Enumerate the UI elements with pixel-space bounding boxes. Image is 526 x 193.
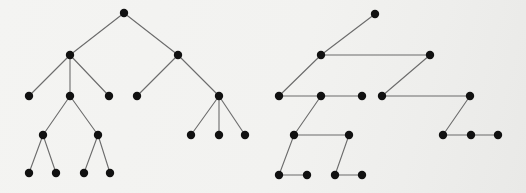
graph-node bbox=[317, 92, 325, 100]
graph-canvas bbox=[0, 0, 526, 193]
graph-edge bbox=[191, 96, 219, 135]
graph-node bbox=[466, 92, 474, 100]
graph-node bbox=[467, 131, 475, 139]
graph-edge bbox=[137, 55, 178, 96]
graph-edge bbox=[98, 135, 110, 173]
graph-edges-right-path-graph bbox=[279, 14, 498, 175]
graph-node bbox=[439, 131, 447, 139]
graph-node bbox=[120, 9, 128, 17]
graph-node bbox=[106, 169, 114, 177]
graph-node bbox=[378, 92, 386, 100]
graph-node bbox=[426, 51, 434, 59]
graph-node bbox=[215, 92, 223, 100]
graph-nodes-right-path-graph bbox=[275, 10, 502, 179]
graph-edge bbox=[84, 135, 98, 173]
graph-node bbox=[358, 171, 366, 179]
graph-edge bbox=[70, 55, 109, 96]
graph-node bbox=[133, 92, 141, 100]
graph-edge bbox=[43, 135, 56, 173]
graph-node bbox=[358, 92, 366, 100]
graph-node bbox=[187, 131, 195, 139]
graph-node bbox=[25, 169, 33, 177]
graph-edge bbox=[321, 14, 375, 55]
figure-root bbox=[0, 0, 526, 193]
graph-node bbox=[345, 131, 353, 139]
graph-edge bbox=[124, 13, 178, 55]
graph-node bbox=[25, 92, 33, 100]
graph-edge bbox=[294, 96, 321, 135]
graph-edge bbox=[29, 55, 70, 96]
graph-edge bbox=[443, 96, 470, 135]
graph-edge bbox=[43, 96, 70, 135]
graph-edge bbox=[219, 96, 245, 135]
graph-node bbox=[39, 131, 47, 139]
graph-node bbox=[303, 171, 311, 179]
graph-node bbox=[105, 92, 113, 100]
graph-edge bbox=[279, 55, 321, 96]
graph-node bbox=[494, 131, 502, 139]
graph-node bbox=[52, 169, 60, 177]
graph-node bbox=[275, 171, 283, 179]
graph-node bbox=[317, 51, 325, 59]
graph-node bbox=[66, 92, 74, 100]
graph-node bbox=[331, 171, 339, 179]
graph-node bbox=[174, 51, 182, 59]
edges-layer bbox=[29, 13, 498, 175]
graph-edge bbox=[70, 13, 124, 55]
graph-node bbox=[275, 92, 283, 100]
graph-edge bbox=[178, 55, 219, 96]
graph-node bbox=[241, 131, 249, 139]
graph-edge bbox=[382, 55, 430, 96]
graph-node bbox=[80, 169, 88, 177]
graph-node bbox=[371, 10, 379, 18]
graph-edge bbox=[29, 135, 43, 173]
graph-node bbox=[290, 131, 298, 139]
graph-edge bbox=[279, 135, 294, 175]
graph-edge bbox=[335, 135, 349, 175]
graph-node bbox=[94, 131, 102, 139]
graph-edge bbox=[70, 96, 98, 135]
graph-node bbox=[215, 131, 223, 139]
graph-node bbox=[66, 51, 74, 59]
